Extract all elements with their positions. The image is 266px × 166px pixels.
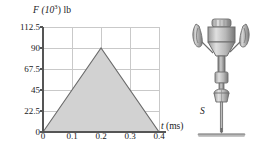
force-time-chart: F (103) lb t (ms) 112.5 90 67.5 45 22.5 …: [0, 0, 180, 166]
upper-collar: [215, 72, 228, 83]
jackhammer-svg: [186, 8, 266, 158]
plot-canvas: [0, 0, 180, 166]
drill-point: [220, 102, 222, 135]
ground-line: [199, 135, 244, 137]
motor-cap: [212, 19, 231, 27]
upper-shaft: [218, 56, 225, 73]
chuck-collar: [214, 89, 229, 102]
jackhammer-illustration: S: [186, 8, 266, 158]
point-label-s: S: [200, 106, 205, 116]
figure-root: F (103) lb t (ms) 112.5 90 67.5 45 22.5 …: [0, 0, 266, 166]
